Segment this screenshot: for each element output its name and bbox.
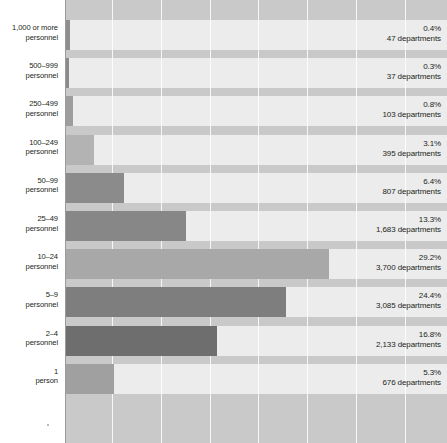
category-label-line1: 2–4 <box>0 329 58 339</box>
category-label: 1person <box>0 367 58 386</box>
category-label: 1,000 or morepersonnel <box>0 23 58 42</box>
value-percent: 6.4% <box>382 177 441 187</box>
category-label-line1: 5–9 <box>0 290 58 300</box>
value-count: 395 departments <box>382 149 441 159</box>
bar <box>66 96 73 126</box>
category-label-line1: 100–249 <box>0 138 58 148</box>
bar <box>66 20 70 50</box>
category-label-line2: personnel <box>0 185 58 195</box>
category-label-line2: personnel <box>0 262 58 272</box>
value-count: 37 departments <box>387 72 441 82</box>
value-count: 3,700 departments <box>376 263 441 273</box>
bar <box>66 326 217 356</box>
category-label-line1: 250–499 <box>0 99 58 109</box>
value-label: 16.8%2,133 departments <box>376 330 441 350</box>
bar <box>66 249 329 279</box>
category-label-line2: personnel <box>0 109 58 119</box>
value-percent: 3.1% <box>382 139 441 149</box>
plot-area: 0.4%47 departments0.3%37 departments0.8%… <box>66 0 447 443</box>
category-label: 5–9personnel <box>0 290 58 309</box>
value-count: 103 departments <box>382 110 441 120</box>
value-percent: 13.3% <box>376 215 441 225</box>
category-label-line1: 25–49 <box>0 214 58 224</box>
gridline <box>258 0 259 443</box>
gridline <box>356 0 357 443</box>
category-label-line2: personnel <box>0 71 58 81</box>
value-count: 2,133 departments <box>376 340 441 350</box>
value-percent: 0.3% <box>387 62 441 72</box>
value-percent: 24.4% <box>376 291 441 301</box>
category-label-line1: 500–999 <box>0 61 58 71</box>
value-count: 1,683 departments <box>376 225 441 235</box>
category-label-line1: 10–24 <box>0 252 58 262</box>
gridline <box>307 0 308 443</box>
value-percent: 0.8% <box>382 100 441 110</box>
page-speck <box>47 424 49 426</box>
category-label: 50–99personnel <box>0 176 58 195</box>
category-label: 250–499personnel <box>0 99 58 118</box>
value-label: 29.2%3,700 departments <box>376 253 441 273</box>
value-percent: 5.3% <box>382 368 441 378</box>
value-label: 0.3%37 departments <box>387 62 441 82</box>
bar <box>66 58 69 88</box>
category-label-line1: 1,000 or more <box>0 23 58 33</box>
category-label-line2: person <box>0 376 58 386</box>
value-label: 6.4%807 departments <box>382 177 441 197</box>
category-label: 500–999personnel <box>0 61 58 80</box>
category-label-line1: 1 <box>0 367 58 377</box>
gridline <box>210 0 211 443</box>
value-label: 0.4%47 departments <box>387 24 441 44</box>
category-label: 10–24personnel <box>0 252 58 271</box>
value-percent: 0.4% <box>387 24 441 34</box>
category-label-line2: personnel <box>0 147 58 157</box>
value-label: 13.3%1,683 departments <box>376 215 441 235</box>
value-label: 0.8%103 departments <box>382 100 441 120</box>
category-label-line1: 50–99 <box>0 176 58 186</box>
value-label: 24.4%3,085 departments <box>376 291 441 311</box>
bar <box>66 287 286 317</box>
category-label: 100–249personnel <box>0 138 58 157</box>
bar <box>66 135 94 165</box>
category-label-line2: personnel <box>0 300 58 310</box>
value-percent: 16.8% <box>376 330 441 340</box>
value-label: 3.1%395 departments <box>382 139 441 159</box>
bar <box>66 364 114 394</box>
y-axis-line <box>65 0 66 443</box>
category-label-line2: personnel <box>0 224 58 234</box>
category-label-column: 1,000 or morepersonnel500–999personnel25… <box>0 0 62 443</box>
category-label-line2: personnel <box>0 338 58 348</box>
bar <box>66 211 186 241</box>
value-count: 47 departments <box>387 34 441 44</box>
category-label: 25–49personnel <box>0 214 58 233</box>
bar <box>66 173 124 203</box>
horizontal-bar-chart: 0.4%47 departments0.3%37 departments0.8%… <box>0 0 447 443</box>
value-count: 807 departments <box>382 187 441 197</box>
category-label: 2–4personnel <box>0 329 58 348</box>
value-count: 3,085 departments <box>376 301 441 311</box>
value-label: 5.3%676 departments <box>382 368 441 388</box>
value-percent: 29.2% <box>376 253 441 263</box>
value-count: 676 departments <box>382 378 441 388</box>
category-label-line2: personnel <box>0 33 58 43</box>
